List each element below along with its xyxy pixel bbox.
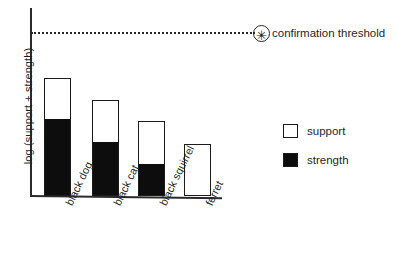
legend-label-support: support xyxy=(307,125,345,137)
y-axis-title: log (support + strength) xyxy=(22,31,34,181)
bar-black-squirrel xyxy=(138,121,165,196)
bar-strength-segment xyxy=(93,142,118,195)
bar-strength-segment xyxy=(45,119,70,195)
legend-item-support: support xyxy=(283,124,349,138)
confirmation-threshold-line xyxy=(31,32,255,34)
confirmation-threshold-label: confirmation threshold xyxy=(272,27,385,39)
bar-chart: log (support + strength) ✳ confirmation … xyxy=(0,0,398,277)
legend-swatch-strength-icon xyxy=(283,153,298,167)
legend: support strength xyxy=(283,124,349,182)
legend-swatch-support-icon xyxy=(283,124,298,138)
legend-item-strength: strength xyxy=(283,153,349,167)
bar-black-cat xyxy=(92,100,119,196)
legend-label-strength: strength xyxy=(307,154,349,166)
bar-strength-segment xyxy=(139,164,164,195)
asterisk-icon: ✳ xyxy=(256,29,267,42)
confirmation-threshold-marker-icon: ✳ xyxy=(253,25,270,42)
bar-black-dog xyxy=(44,78,71,196)
